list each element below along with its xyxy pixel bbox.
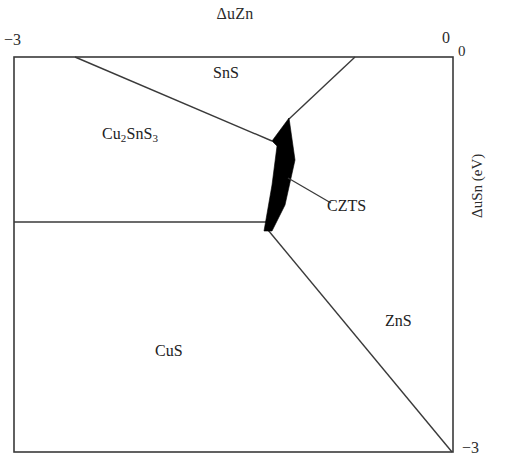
- region-label-cus: CuS: [155, 343, 183, 359]
- cu2sns3-prefix: Cu: [102, 125, 121, 142]
- cu2sns3-middle: SnS: [127, 125, 153, 142]
- region-label-sns: SnS: [213, 65, 239, 81]
- boundary-sns-zns: [289, 57, 355, 119]
- phase-diagram-plot: [0, 0, 515, 470]
- region-label-cu2sns3: Cu2SnS3: [102, 126, 158, 144]
- phase-diagram-figure: ΔuZn ΔuSn (eV) −3 0 0 −3 SnS Cu2SnS3 CZT…: [0, 0, 515, 470]
- czts-stability-region: [264, 118, 295, 231]
- region-label-czts: CZTS: [327, 198, 366, 214]
- cu2sns3-subscript-3: 3: [152, 132, 158, 144]
- boundary-cus-zns: [268, 230, 452, 452]
- region-label-zns: ZnS: [385, 313, 412, 329]
- czts-leader-line: [288, 178, 331, 203]
- plot-border: [14, 57, 453, 452]
